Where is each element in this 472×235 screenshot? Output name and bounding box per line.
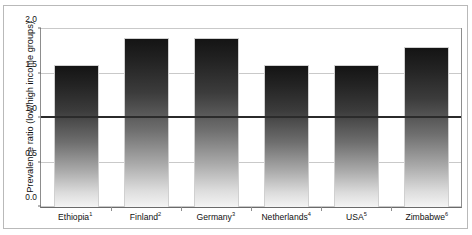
clipped-caption-bottom	[0, 224, 472, 233]
figure-frame: Prevalence ratio (low/high income groups…	[3, 5, 468, 229]
category-tick	[181, 207, 182, 211]
y-tick-label: 0.5	[25, 148, 37, 158]
plot-area: 0.00.51.01.52.0	[40, 28, 462, 208]
footnote-marker: 6	[445, 211, 448, 217]
y-tick-label: 0.0	[25, 192, 37, 202]
y-tick-label: 1.5	[25, 59, 37, 69]
bar	[334, 65, 379, 207]
bar-slot	[181, 29, 251, 207]
bar	[194, 38, 239, 207]
category-tick	[321, 207, 322, 211]
y-tick-label: 2.0	[25, 14, 37, 24]
category-tick	[391, 207, 392, 211]
bar-slot	[391, 29, 461, 207]
bar-slot	[111, 29, 181, 207]
footnote-marker: 2	[158, 211, 161, 217]
footnote-marker: 1	[89, 211, 92, 217]
x-axis-label: USA5	[321, 212, 391, 222]
x-axis-labels: Ethiopia1Finland2Germany3Netherlands4USA…	[40, 212, 462, 222]
y-tick-mark	[38, 117, 41, 118]
y-tick-label: 1.0	[25, 103, 37, 113]
footnote-marker: 3	[232, 211, 235, 217]
x-axis-label: Zimbabwe6	[392, 212, 462, 222]
bar-slot	[41, 29, 111, 207]
x-axis-label: Netherlands4	[251, 212, 321, 222]
bar-slot	[321, 29, 391, 207]
reference-line: 1.0	[41, 116, 461, 118]
bar	[264, 65, 309, 207]
bar	[404, 47, 449, 207]
bar	[124, 38, 169, 207]
bar-slot	[251, 29, 321, 207]
category-tick	[251, 207, 252, 211]
x-axis-label: Ethiopia1	[40, 212, 110, 222]
footnote-marker: 4	[308, 211, 311, 217]
chart-figure: Prevalence ratio (low/high income groups…	[0, 0, 472, 235]
bar	[54, 65, 99, 207]
category-tick	[111, 207, 112, 211]
footnote-marker: 5	[364, 211, 367, 217]
x-axis-label: Germany3	[181, 212, 251, 222]
x-axis-label: Finland2	[110, 212, 180, 222]
bar-series	[41, 29, 461, 207]
